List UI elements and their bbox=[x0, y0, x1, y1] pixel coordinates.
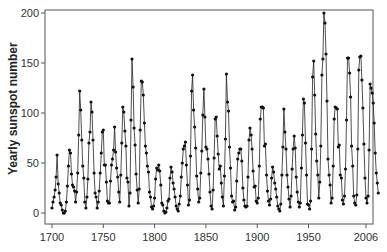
data-point bbox=[97, 200, 100, 203]
data-point bbox=[252, 169, 255, 172]
data-point bbox=[115, 166, 118, 169]
data-point bbox=[265, 173, 268, 176]
data-point bbox=[185, 163, 188, 166]
data-point bbox=[285, 173, 288, 176]
data-point bbox=[316, 173, 319, 176]
data-point bbox=[313, 93, 316, 96]
data-point bbox=[68, 148, 71, 151]
data-point bbox=[85, 195, 88, 198]
data-point bbox=[273, 181, 276, 184]
data-point bbox=[96, 206, 99, 209]
data-point bbox=[210, 204, 213, 207]
data-point bbox=[328, 173, 331, 176]
data-point bbox=[202, 87, 205, 90]
data-point bbox=[369, 82, 372, 85]
data-point bbox=[282, 107, 285, 110]
data-point bbox=[148, 190, 151, 193]
data-point bbox=[341, 198, 344, 201]
data-point bbox=[230, 194, 233, 197]
x-tick-label: 1700 bbox=[40, 231, 64, 243]
y-tick-label: 50 bbox=[27, 157, 39, 169]
data-point bbox=[54, 188, 57, 191]
data-point bbox=[331, 196, 334, 199]
data-point bbox=[272, 170, 275, 173]
data-point bbox=[274, 187, 277, 190]
data-point bbox=[259, 117, 262, 120]
data-point bbox=[82, 176, 85, 179]
y-tick-label: 150 bbox=[21, 57, 39, 69]
data-point bbox=[289, 205, 292, 208]
data-point bbox=[171, 170, 174, 173]
data-point bbox=[153, 196, 156, 199]
data-point bbox=[69, 151, 72, 154]
data-point bbox=[65, 200, 68, 203]
data-point bbox=[212, 188, 215, 191]
data-point bbox=[320, 73, 323, 76]
y-tick-label: 0 bbox=[33, 207, 39, 219]
data-point bbox=[57, 182, 60, 185]
data-point bbox=[158, 169, 161, 172]
data-point bbox=[120, 141, 123, 144]
data-point bbox=[189, 154, 192, 157]
data-point bbox=[145, 151, 148, 154]
data-point bbox=[330, 201, 333, 204]
data-point bbox=[347, 56, 350, 59]
data-point bbox=[113, 125, 116, 128]
data-point bbox=[55, 175, 58, 178]
data-point bbox=[322, 11, 325, 14]
data-point bbox=[183, 144, 186, 147]
data-point bbox=[213, 156, 216, 159]
data-point bbox=[144, 144, 147, 147]
data-point bbox=[217, 152, 220, 155]
data-point bbox=[122, 110, 125, 113]
data-point bbox=[76, 171, 79, 174]
data-point bbox=[164, 210, 167, 213]
data-point bbox=[74, 200, 77, 203]
data-point bbox=[256, 201, 259, 204]
data-point bbox=[264, 142, 267, 145]
data-point bbox=[66, 184, 69, 187]
data-point bbox=[200, 149, 203, 152]
data-point bbox=[58, 191, 61, 194]
data-point bbox=[179, 194, 182, 197]
data-point bbox=[290, 194, 293, 197]
y-axis-label: Yearly sunspot number bbox=[6, 45, 20, 175]
data-point bbox=[338, 143, 341, 146]
data-point bbox=[291, 167, 294, 170]
data-point bbox=[351, 164, 354, 167]
data-point bbox=[371, 91, 374, 94]
data-point bbox=[246, 175, 249, 178]
data-point bbox=[119, 173, 122, 176]
data-point bbox=[308, 207, 311, 210]
data-point bbox=[235, 179, 238, 182]
data-point bbox=[300, 166, 303, 169]
data-point bbox=[154, 177, 157, 180]
data-point bbox=[175, 204, 178, 207]
data-point bbox=[127, 204, 130, 207]
data-point bbox=[352, 194, 355, 197]
data-point bbox=[319, 144, 322, 147]
data-point bbox=[192, 108, 195, 111]
data-point bbox=[174, 195, 177, 198]
data-point bbox=[141, 80, 144, 83]
data-point bbox=[280, 173, 283, 176]
data-point bbox=[124, 144, 127, 147]
data-point bbox=[126, 180, 129, 183]
data-point bbox=[130, 57, 133, 60]
data-point bbox=[333, 117, 336, 120]
data-point bbox=[301, 133, 304, 136]
sunspot-series-line bbox=[52, 13, 378, 213]
data-point bbox=[196, 187, 199, 190]
data-point bbox=[91, 138, 94, 141]
data-point bbox=[251, 147, 254, 150]
data-point bbox=[342, 202, 345, 205]
data-point bbox=[336, 107, 339, 110]
data-point bbox=[98, 189, 101, 192]
data-point bbox=[51, 200, 54, 203]
data-point bbox=[70, 172, 73, 175]
data-point bbox=[142, 93, 145, 96]
data-point bbox=[64, 209, 67, 212]
data-point bbox=[286, 185, 289, 188]
data-point bbox=[234, 205, 237, 208]
data-point bbox=[206, 157, 209, 160]
